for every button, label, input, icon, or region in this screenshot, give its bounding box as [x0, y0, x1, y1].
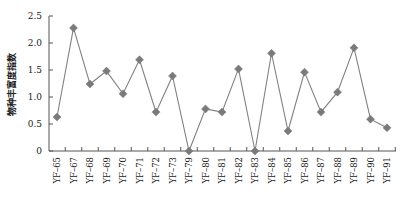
diamond-marker-icon: [119, 90, 127, 98]
diamond-marker-icon: [169, 72, 177, 80]
diamond-marker-icon: [350, 44, 358, 52]
diamond-marker-icon: [53, 113, 61, 121]
data-series: [53, 24, 391, 155]
diamond-marker-icon: [268, 49, 276, 57]
x-category-label: YF–79: [184, 157, 194, 185]
y-tick-label: 2.5: [28, 11, 43, 21]
diamond-marker-icon: [235, 65, 243, 73]
x-category-label: YF–69: [102, 157, 112, 185]
x-category-label: YF–89: [349, 157, 359, 185]
x-category-label: YF–85: [283, 157, 293, 185]
diamond-marker-icon: [301, 68, 309, 76]
x-category-label: YF–67: [69, 157, 79, 185]
x-axis: YF–65YF–67YF–68YF–69YF–70YF–71YF–72YF–73…: [49, 147, 396, 185]
x-category-label: YF–91: [382, 157, 392, 185]
x-category-label: YF–72: [151, 157, 161, 185]
x-category-label: YF–71: [135, 157, 145, 185]
y-axis-title: 物种丰富度指数: [6, 52, 17, 116]
x-category-label: YF–87: [316, 157, 326, 185]
y-tick-label: 2.0: [28, 38, 43, 48]
diamond-marker-icon: [218, 108, 226, 116]
x-category-label: YF–83: [250, 157, 260, 185]
diamond-marker-icon: [70, 24, 78, 32]
diamond-marker-icon: [367, 115, 375, 123]
y-tick-label: 1.0: [28, 92, 43, 102]
x-category-label: YF–88: [333, 157, 343, 185]
line-chart: 00.51.01.52.02.5 YF–65YF–67YF–68YF–69YF–…: [0, 0, 409, 201]
x-category-label: YF–68: [85, 157, 95, 185]
y-tick-label: 0.5: [28, 119, 43, 129]
diamond-marker-icon: [152, 108, 160, 116]
diamond-marker-icon: [383, 124, 391, 132]
diamond-marker-icon: [284, 127, 292, 135]
diamond-marker-icon: [185, 147, 193, 155]
x-category-label: YF–82: [234, 157, 244, 185]
diamond-marker-icon: [136, 56, 144, 64]
x-category-label: YF–84: [267, 157, 277, 185]
x-category-label: YF–86: [300, 157, 310, 185]
y-tick-label: 0: [36, 146, 42, 156]
x-category-label: YF–73: [168, 157, 178, 185]
x-category-label: YF–70: [118, 157, 128, 185]
x-category-label: YF–81: [217, 157, 227, 185]
y-axis: 00.51.01.52.02.5: [28, 11, 53, 156]
y-tick-label: 1.5: [28, 65, 43, 75]
diamond-marker-icon: [251, 147, 259, 155]
x-category-label: YF–90: [366, 157, 376, 185]
x-category-label: YF–65: [52, 157, 62, 185]
diamond-marker-icon: [202, 105, 210, 113]
x-category-label: YF–80: [201, 157, 211, 185]
